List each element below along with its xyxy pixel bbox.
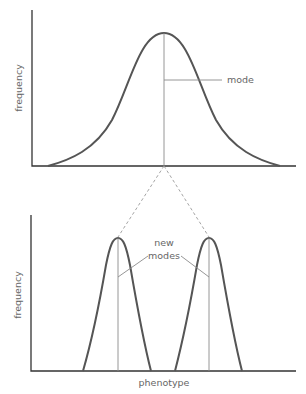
connector-left [118,166,164,237]
top-panel: frequency mode [13,10,296,166]
mode-label: mode [227,74,254,85]
bottom-y-label: frequency [12,271,23,319]
new-modes-label-line2: modes [148,250,180,261]
new-distribution-right-curve [175,238,242,371]
disruptive-selection-diagram: frequency mode frequency new modes pheno… [0,0,306,394]
new-distribution-left-curve [83,238,151,371]
bottom-x-label: phenotype [139,377,190,388]
new-modes-label-line1: new [154,237,174,248]
top-y-label: frequency [13,64,24,112]
bottom-panel: frequency new modes phenotype [12,215,296,388]
new-modes-leader-left [118,256,148,277]
connector-right [164,166,209,237]
